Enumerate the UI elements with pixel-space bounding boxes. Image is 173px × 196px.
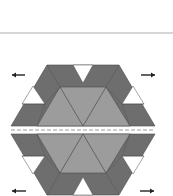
- arrow-top-left-icon: [12, 73, 25, 78]
- arrow-bottom-left-icon: [12, 189, 26, 194]
- hexagon-diagram: [0, 0, 173, 196]
- arrow-top-right-icon: [141, 73, 155, 78]
- upper-half: [11, 65, 155, 126]
- lower-half: [11, 134, 155, 195]
- arrow-bottom-right-icon: [140, 189, 154, 194]
